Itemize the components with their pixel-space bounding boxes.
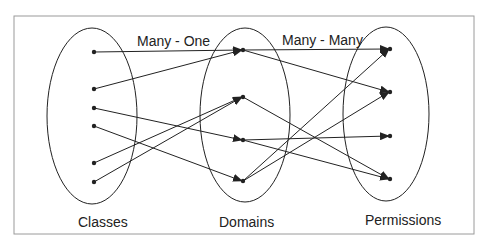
mapping-diagram: Many - One Many - Many Classes Domains P… bbox=[0, 0, 489, 250]
edge-domain-to-permission bbox=[243, 49, 389, 181]
edge-class-to-domain bbox=[94, 97, 242, 182]
relation-many-one-label: Many - One bbox=[137, 33, 210, 49]
permissions-set-label: Permissions bbox=[365, 212, 441, 228]
edge-class-to-domain bbox=[94, 50, 242, 52]
edge-domain-to-permission bbox=[243, 50, 389, 92]
permission-node bbox=[388, 134, 392, 138]
domains-set-label: Domains bbox=[219, 214, 274, 230]
domain-node bbox=[241, 179, 245, 183]
class-node bbox=[92, 87, 96, 91]
class-node bbox=[92, 50, 96, 54]
permission-node bbox=[388, 90, 392, 94]
class-node bbox=[92, 161, 96, 165]
relation-many-many-label: Many - Many bbox=[282, 32, 363, 48]
class-node bbox=[92, 124, 96, 128]
edge-domain-to-permission bbox=[243, 49, 389, 50]
class-node bbox=[92, 106, 96, 110]
edge-domain-to-permission bbox=[243, 140, 389, 179]
class-node bbox=[92, 180, 96, 184]
classes-set-ellipse bbox=[47, 28, 137, 204]
classes-set-label: Classes bbox=[78, 214, 128, 230]
domains-set-ellipse bbox=[200, 28, 290, 202]
edge-class-to-domain bbox=[94, 50, 242, 89]
permission-node bbox=[388, 47, 392, 51]
domain-node bbox=[241, 48, 245, 52]
domain-node bbox=[241, 95, 245, 99]
permission-node bbox=[388, 177, 392, 181]
edges bbox=[94, 49, 389, 182]
permissions-set-ellipse bbox=[343, 27, 429, 201]
edge-class-to-domain bbox=[94, 108, 242, 140]
domain-node bbox=[241, 138, 245, 142]
